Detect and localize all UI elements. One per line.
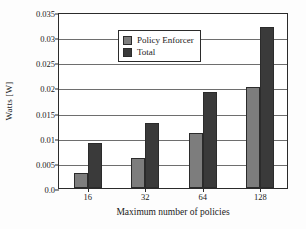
bar [145,123,159,188]
y-tick-label: 0.01 [40,135,55,144]
y-tick-label: 0.02 [40,85,55,94]
y-tick-mark [55,64,59,65]
legend: Policy EnforcerTotal [118,30,201,62]
y-tick-mark [55,164,59,165]
legend-item: Policy Enforcer [123,34,194,46]
bar [260,27,274,188]
x-tick-label: 64 [199,193,208,202]
legend-swatch [123,36,132,45]
y-tick-label: 0.015 [36,110,55,119]
gridline [59,64,287,65]
y-axis-title-text: Watts [W] [4,82,14,121]
bar [189,133,203,188]
bar [74,173,88,188]
bar [246,87,260,188]
y-tick-label: 0.0 [44,186,55,195]
y-tick-mark [55,190,59,191]
bar [131,158,145,188]
y-tick-label: 0.035 [36,10,55,19]
figure: Watts [W] 0.00.0050.010.0150.020.0250.03… [0,0,306,229]
y-axis-title: Watts [W] [2,66,16,136]
x-tick-label: 32 [141,193,150,202]
x-tick-label: 16 [84,193,93,202]
plot-area: 0.00.0050.010.0150.020.0250.030.035 1632… [58,13,288,189]
y-tick-label: 0.03 [40,35,55,44]
y-tick-mark [55,14,59,15]
legend-swatch [123,48,132,57]
y-tick-mark [55,89,59,90]
y-tick-mark [55,139,59,140]
y-tick-label: 0.025 [36,60,55,69]
legend-label: Policy Enforcer [137,36,194,45]
y-tick-label: 0.005 [36,161,55,170]
x-axis-title: Maximum number of policies [58,207,288,217]
bar [203,92,217,188]
legend-item: Total [123,46,194,58]
x-tick-label: 128 [254,193,267,202]
y-tick-mark [55,114,59,115]
bar [88,143,102,188]
legend-label: Total [137,48,155,57]
y-tick-mark [55,39,59,40]
